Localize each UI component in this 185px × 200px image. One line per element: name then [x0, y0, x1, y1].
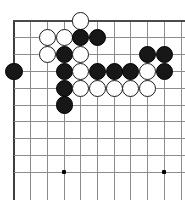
white-stone[interactable]: [39, 29, 56, 46]
goban-grid: [0, 0, 185, 200]
board-horizontal-line: [14, 105, 185, 106]
white-stone[interactable]: [72, 46, 89, 63]
white-stone[interactable]: [122, 80, 139, 97]
black-stone[interactable]: [89, 29, 106, 46]
black-stone[interactable]: [156, 46, 173, 63]
board-horizontal-line: [14, 121, 185, 122]
board-vertical-line: [114, 21, 115, 200]
board-top-edge-line: [13, 20, 185, 22]
hoshi-point: [62, 170, 66, 174]
black-stone[interactable]: [156, 63, 173, 80]
board-horizontal-line: [14, 138, 185, 139]
black-stone[interactable]: [56, 46, 73, 63]
black-stone[interactable]: [5, 63, 22, 80]
white-stone[interactable]: [56, 29, 73, 46]
black-stone[interactable]: [56, 96, 73, 113]
board-horizontal-line: [14, 172, 185, 173]
black-stone[interactable]: [139, 46, 156, 63]
black-stone[interactable]: [56, 80, 73, 97]
board-horizontal-line: [14, 155, 185, 156]
white-stone[interactable]: [72, 63, 89, 80]
black-stone[interactable]: [122, 63, 139, 80]
black-stone[interactable]: [89, 63, 106, 80]
black-stone[interactable]: [106, 63, 123, 80]
hoshi-point: [162, 170, 166, 174]
white-stone[interactable]: [139, 80, 156, 97]
go-board-diagram: [0, 0, 185, 200]
black-stone[interactable]: [56, 63, 73, 80]
white-stone[interactable]: [72, 12, 89, 29]
white-stone[interactable]: [39, 46, 56, 63]
white-stone[interactable]: [106, 80, 123, 97]
white-stone[interactable]: [72, 80, 89, 97]
black-stone[interactable]: [72, 29, 89, 46]
board-vertical-line: [97, 21, 98, 200]
white-stone[interactable]: [139, 63, 156, 80]
board-vertical-line: [130, 21, 131, 200]
board-vertical-line: [30, 21, 31, 200]
board-vertical-line: [181, 21, 182, 200]
white-stone[interactable]: [89, 80, 106, 97]
